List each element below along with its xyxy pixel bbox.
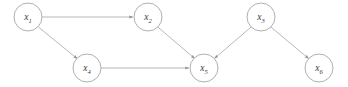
node-x6[interactable]: x6 xyxy=(305,54,333,82)
edge-x3-to-x6 xyxy=(271,27,309,59)
node-group: x1 x2 x3 x4 x5 x6 xyxy=(14,3,333,82)
node-x5[interactable]: x5 xyxy=(190,54,218,82)
edge-x2-to-x5 xyxy=(158,27,195,59)
dag-canvas: x1 x2 x3 x4 x5 x6 xyxy=(0,0,348,87)
node-x2[interactable]: x2 xyxy=(134,3,162,31)
node-x3[interactable]: x3 xyxy=(247,3,275,31)
node-x4[interactable]: x4 xyxy=(73,54,101,82)
node-x1[interactable]: x1 xyxy=(14,3,42,31)
dag-figure: x1 x2 x3 x4 x5 x6 xyxy=(0,0,348,87)
edge-x1-to-x4 xyxy=(38,27,77,59)
edge-x3-to-x5 xyxy=(214,27,251,58)
